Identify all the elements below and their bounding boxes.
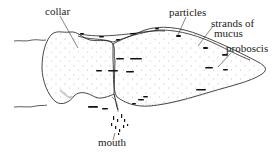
label-particles: particles (169, 7, 206, 17)
label-collar: collar (45, 6, 70, 16)
collar-shape (42, 32, 115, 104)
label-mouth: mouth (98, 137, 126, 147)
label-strands-line2: mucus (214, 28, 243, 38)
proboscis-shape (113, 27, 265, 106)
label-proboscis: proboscis (226, 43, 268, 53)
falling-particles (111, 114, 128, 135)
diagram: collar particles strands of mucus probos… (0, 0, 277, 153)
